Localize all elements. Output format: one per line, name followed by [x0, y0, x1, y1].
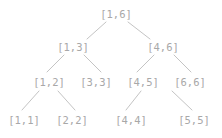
- segment-tree-diagram: [1,6][1,3][4,6][1,2][3,3][4,5][6,6][1,1]…: [0, 0, 222, 138]
- tree-node: [2,2]: [56, 114, 88, 126]
- tree-node: [6,6]: [174, 76, 206, 88]
- tree-edge: [137, 55, 154, 72]
- tree-edge: [84, 55, 101, 72]
- tree-node: [1,3]: [57, 41, 89, 53]
- tree-edge: [126, 91, 141, 110]
- tree-node: [1,2]: [33, 76, 65, 88]
- tree-node: [4,4]: [115, 114, 147, 126]
- tree-node: [4,5]: [127, 76, 159, 88]
- tree-edge: [172, 91, 192, 110]
- tree-node: [1,6]: [100, 8, 132, 20]
- tree-node: [4,6]: [147, 41, 179, 53]
- tree-node: [1,1]: [8, 114, 40, 126]
- tree-edge: [87, 22, 106, 39]
- tree-edge: [58, 91, 75, 110]
- tree-node: [3,3]: [80, 76, 112, 88]
- tree-edge: [47, 55, 64, 72]
- tree-edge: [174, 55, 191, 72]
- tree-edge: [22, 91, 39, 110]
- tree-node: [5,5]: [178, 114, 210, 126]
- tree-edges-group: [22, 22, 192, 110]
- tree-edge: [128, 22, 150, 39]
